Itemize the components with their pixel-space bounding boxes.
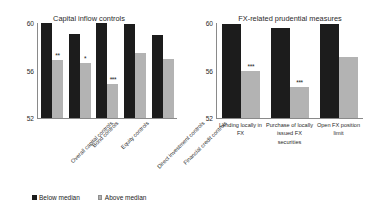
x-axis-line	[38, 118, 177, 119]
bar-series-1	[222, 24, 241, 119]
chart-panel-capital-inflow-controls: Capital inflow controls 60 56 52 ****** …	[0, 0, 188, 207]
bar-group: ***	[217, 23, 266, 119]
significance-marker: ***	[247, 64, 254, 71]
significance-marker: *	[84, 55, 86, 62]
significance-marker: **	[55, 53, 59, 60]
bar-series-2: *	[80, 63, 91, 119]
x-axis-labels: Lending locally in FXPurchase of locally…	[216, 121, 363, 161]
legend-item[interactable]: Above median	[98, 194, 147, 201]
bar-series-1	[320, 24, 339, 119]
chart-title: FX-related prudential measures	[210, 14, 370, 23]
significance-marker: ***	[296, 79, 303, 86]
plot-area: ******	[216, 23, 363, 119]
bar-series-1	[41, 23, 52, 119]
x-axis-label: Open FX position limit	[314, 121, 363, 161]
bar-groups: ******	[217, 23, 363, 119]
bar-series-2: ***	[241, 71, 260, 119]
y-axis-tick-label: 56	[18, 68, 34, 75]
legend-label: Below median	[39, 194, 80, 201]
bar-series-1	[271, 28, 290, 119]
x-axis-labels: Overall capital controlsBond controlsEqu…	[37, 120, 177, 178]
legend-swatch-icon	[98, 195, 103, 200]
x-axis-line	[217, 118, 363, 119]
legend-swatch-icon	[32, 195, 37, 200]
chart-legend: Below medianAbove median	[32, 194, 146, 201]
bar-group	[314, 23, 363, 119]
bar-series-2	[135, 53, 146, 119]
bar-group	[149, 23, 177, 119]
bar-group: **	[38, 23, 66, 119]
bar-series-1	[124, 24, 135, 119]
x-axis-label: Lending locally in FX	[216, 121, 265, 161]
bar-series-1	[96, 23, 107, 119]
bar-groups: ******	[38, 23, 177, 119]
bar-group: ***	[266, 23, 315, 119]
x-axis-label: Equity controls	[120, 120, 150, 150]
bar-group: *	[66, 23, 94, 119]
y-axis-tick-label: 60	[18, 20, 34, 27]
bar-series-2	[163, 59, 174, 119]
bar-series-2: ***	[290, 87, 309, 119]
bar-series-2: **	[52, 60, 63, 119]
legend-item[interactable]: Below median	[32, 194, 80, 201]
bar-group: ***	[94, 23, 122, 119]
bar-group	[121, 23, 149, 119]
legend-label: Above median	[105, 194, 147, 201]
y-axis-tick-label: 52	[18, 115, 34, 122]
bar-series-2: ***	[107, 84, 118, 119]
y-axis-tick-label: 56	[197, 68, 213, 75]
bar-series-1	[152, 35, 163, 119]
y-axis-tick-label: 52	[197, 115, 213, 122]
significance-marker: ***	[110, 77, 117, 84]
plot-area: ******	[37, 23, 177, 119]
chart-panel-fx-related-prudential-measures: FX-related prudential measures 60 56 52 …	[188, 0, 376, 207]
chart-title: Capital inflow controls	[14, 14, 164, 23]
bar-series-1	[69, 34, 80, 119]
x-axis-label: Purchase of locally issued FX securities	[265, 121, 314, 161]
y-axis-tick-label: 60	[197, 20, 213, 27]
chart-page: Capital inflow controls 60 56 52 ****** …	[0, 0, 376, 207]
bar-series-2	[339, 57, 358, 119]
